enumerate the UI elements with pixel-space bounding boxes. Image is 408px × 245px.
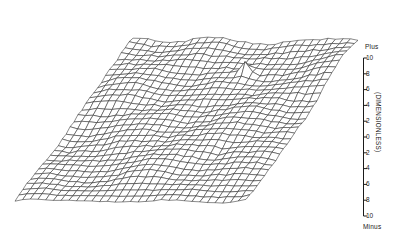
axis-unit-label: (DIMENSIONLESS) — [375, 92, 382, 152]
chart-root: Plus Minus (DIMENSIONLESS) 1086420246810 — [0, 0, 408, 245]
axis-tick-label: 8 — [366, 197, 370, 204]
axis-tick-label: 10 — [366, 55, 373, 62]
wireframe-mesh — [0, 0, 368, 245]
axis-tick-label: 6 — [366, 86, 370, 93]
vertical-scale-axis: Plus Minus (DIMENSIONLESS) 1086420246810 — [352, 0, 408, 245]
axis-tick-label: 10 — [366, 213, 373, 220]
axis-tick-label: 2 — [366, 118, 370, 125]
axis-tick-label: 4 — [366, 102, 370, 109]
axis-tick-label: 4 — [366, 165, 370, 172]
axis-tick-label: 8 — [366, 71, 370, 78]
surface-plot — [0, 0, 368, 245]
axis-tick-label: 0 — [366, 134, 370, 141]
axis-tick-label: 2 — [366, 150, 370, 157]
axis-tick-label: 6 — [366, 181, 370, 188]
axis-top-label: Plus — [365, 44, 378, 51]
mesh-lines — [15, 37, 358, 203]
axis-bottom-label: Minus — [363, 224, 381, 231]
